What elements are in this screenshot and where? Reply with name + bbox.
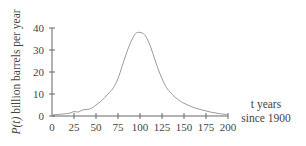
x-tick-label: 150 [176, 121, 193, 133]
x-tick-label: 25 [69, 121, 81, 133]
production-curve [52, 32, 228, 115]
y-tick-label: 20 [33, 66, 45, 78]
x-tick-label: 100 [132, 121, 149, 133]
x-tick-label: 0 [49, 121, 55, 133]
x-tick-label: 125 [154, 121, 171, 133]
x-tick-label: 50 [91, 121, 103, 133]
axes [52, 28, 228, 116]
oil-production-chart: 010203040 0255075100125150175200 P(t) bi… [0, 0, 306, 146]
x-tick-label: 75 [113, 121, 125, 133]
x-tick-label: 200 [220, 121, 237, 133]
y-tick-label: 40 [33, 22, 45, 34]
y-axis-label: P(t) billion barrels per year [10, 9, 23, 135]
y-tick-label: 30 [33, 44, 45, 56]
y-tick-label: 0 [39, 110, 45, 122]
x-axis-label-line2: since 1900 [241, 112, 291, 124]
x-tick-label: 175 [198, 121, 215, 133]
y-tick-label: 10 [33, 88, 45, 100]
x-axis-label-line1: t years [251, 98, 282, 111]
